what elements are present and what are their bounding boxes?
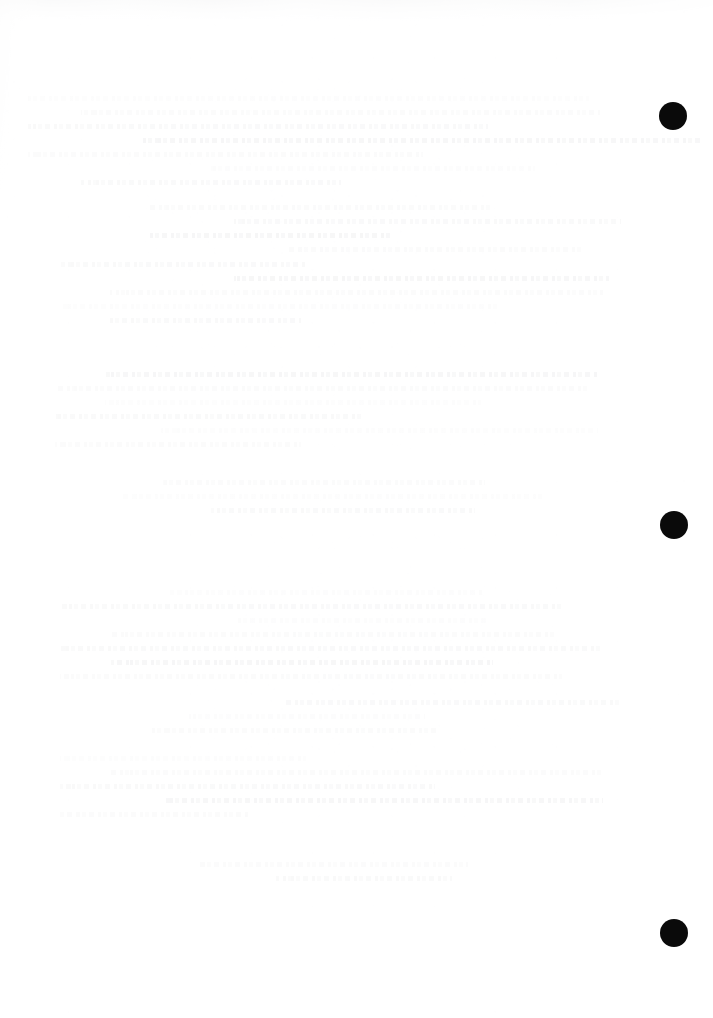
scanned-page	[0, 0, 713, 1018]
left-edge-scan-smudge	[0, 0, 34, 300]
registration-dots-dot-bottom	[660, 919, 688, 947]
top-edge-scan-smudge	[0, 0, 713, 26]
paper-grain-texture	[0, 0, 713, 1018]
registration-dots-dot-top	[659, 102, 687, 130]
registration-dots-dot-middle	[660, 511, 688, 539]
